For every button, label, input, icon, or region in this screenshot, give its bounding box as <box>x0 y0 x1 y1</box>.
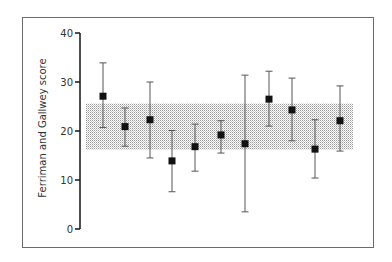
square-marker <box>312 146 319 153</box>
y-tick-label: 20 <box>60 126 73 137</box>
y-tick-label: 0 <box>67 224 73 235</box>
square-marker <box>122 123 129 130</box>
square-marker <box>337 117 344 124</box>
square-marker <box>147 116 154 123</box>
square-marker <box>192 143 199 150</box>
y-tick-label: 30 <box>60 77 73 88</box>
chart: 010203040 Ferriman and Gallwey score <box>0 0 392 262</box>
square-marker <box>242 140 249 147</box>
square-marker <box>289 106 296 113</box>
y-axis-label: Ferriman and Gallwey score <box>37 58 48 197</box>
square-marker <box>100 93 107 100</box>
y-tick-label: 40 <box>60 28 73 39</box>
y-axis: 010203040 <box>60 28 80 235</box>
square-marker <box>266 96 273 103</box>
square-marker <box>218 131 225 138</box>
y-tick-label: 10 <box>60 175 73 186</box>
data-point <box>242 75 249 212</box>
square-marker <box>169 157 176 164</box>
